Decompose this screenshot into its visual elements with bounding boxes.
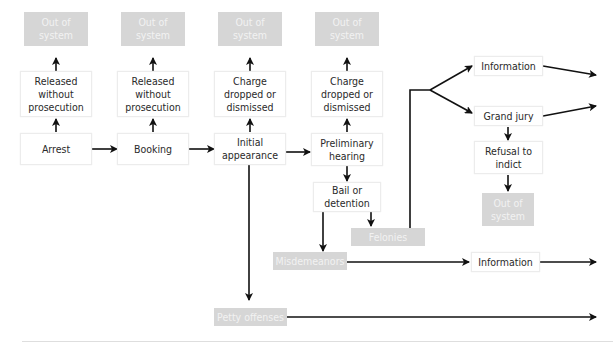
felonies-node: Felonies <box>351 228 425 246</box>
out-of-system-arrest: Out of system <box>24 12 88 46</box>
charge-dropped-initial: Charge dropped or dismissed <box>214 71 286 117</box>
out-of-system-prelim: Out of system <box>315 12 379 46</box>
out-of-system-refusal: Out of system <box>482 193 534 226</box>
booking-node: Booking <box>117 133 189 165</box>
misdemeanors-node: Misdemeanors <box>273 252 347 270</box>
refusal-to-indict-node: Refusal to indict <box>474 141 543 174</box>
initial-appearance-node: Initial appearance <box>214 133 286 165</box>
released-without-prosecution-booking: Released without prosecution <box>117 71 189 117</box>
preliminary-hearing-node: Preliminary hearing <box>311 133 383 166</box>
released-without-prosecution-arrest: Released without prosecution <box>20 71 92 117</box>
connector-arrows <box>0 0 613 352</box>
information-misdemeanor-node: Information <box>471 252 540 272</box>
petty-offenses-node: Petty offenses <box>214 308 287 326</box>
bail-or-detention-node: Bail or detention <box>313 182 381 212</box>
grand-jury-node: Grand jury <box>474 106 543 126</box>
out-of-system-booking: Out of system <box>121 12 185 46</box>
bottom-divider <box>22 341 613 342</box>
arrest-node: Arrest <box>20 133 92 165</box>
charge-dropped-prelim: Charge dropped or dismissed <box>311 71 383 117</box>
out-of-system-initial: Out of system <box>218 12 282 46</box>
information-felony-node: Information <box>474 56 543 76</box>
